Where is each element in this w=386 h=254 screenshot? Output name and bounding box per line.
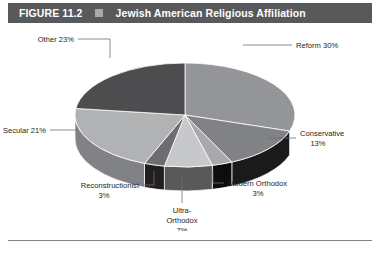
slice-label: 3% bbox=[253, 189, 264, 198]
slice-label: 7% bbox=[177, 226, 188, 231]
square-bullet-icon bbox=[95, 9, 103, 17]
figure-number: FIGURE 11.2 bbox=[19, 7, 83, 19]
slice-label: Other 23% bbox=[38, 35, 75, 44]
pie-side-reconstructionist bbox=[145, 163, 165, 190]
leader-line bbox=[78, 39, 110, 58]
figure-container: FIGURE 11.2 Jewish American Religious Af… bbox=[0, 0, 386, 254]
slice-label: Orthodox bbox=[166, 216, 197, 225]
slice-label: 13% bbox=[310, 139, 325, 148]
slice-label: Ultra- bbox=[173, 206, 192, 215]
pie-side-ultra-orthodox bbox=[164, 165, 212, 191]
slice-label: Reform 30% bbox=[296, 41, 338, 50]
slice-label: Secular 21% bbox=[3, 126, 46, 135]
figure-title: Jewish American Religious Affiliation bbox=[116, 7, 306, 19]
slice-label: Modern Orthodox bbox=[228, 179, 287, 188]
figure-header-bar: FIGURE 11.2 Jewish American Religious Af… bbox=[8, 3, 372, 23]
slice-label: 3% bbox=[99, 191, 110, 200]
slice-label: Conservative bbox=[300, 129, 344, 138]
pie-slice-other[interactable] bbox=[76, 63, 185, 115]
pie-3d-group bbox=[75, 63, 295, 191]
slice-label: Reconstructionist bbox=[81, 181, 140, 190]
pie-chart-svg: Reform 30%Conservative13%Modern Orthodox… bbox=[0, 23, 386, 231]
pie-chart-area: Reform 30%Conservative13%Modern Orthodox… bbox=[0, 23, 386, 231]
bottom-divider bbox=[8, 240, 372, 241]
